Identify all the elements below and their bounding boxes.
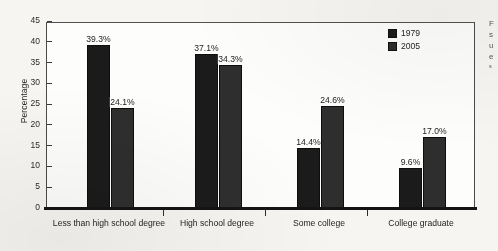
x-tick-2	[265, 210, 266, 216]
y-tick-label: 20	[31, 119, 40, 129]
y-tick-label: 35	[31, 57, 40, 67]
bar-1979-1[interactable]: 39.3%	[87, 45, 110, 208]
legend-item-1979[interactable]: 1979	[388, 27, 420, 39]
legend-swatch-icon	[388, 29, 397, 38]
x-tick-3	[367, 210, 368, 216]
y-tick-label: 40	[31, 36, 40, 46]
legend-item-2005[interactable]: 2005	[388, 40, 420, 52]
bar-group-2: 37.1%34.3%	[195, 23, 242, 208]
bar-1979-2[interactable]: 37.1%	[195, 54, 218, 208]
y-axis-title: Percentage	[19, 56, 29, 146]
margin-line-2: s	[489, 29, 498, 40]
bar-2005-4[interactable]: 17.0%	[423, 137, 446, 208]
legend-label: 1979	[401, 28, 420, 38]
x-axis-label-1: Less than high school degree	[49, 218, 169, 230]
bar-value-label: 17.0%	[421, 126, 447, 136]
bar-group-1: 39.3%24.1%	[87, 23, 134, 208]
x-tick-1	[163, 210, 164, 216]
chart-legend: 19792005	[388, 27, 420, 53]
bar-2005-3[interactable]: 24.6%	[321, 106, 344, 208]
bar-value-label: 37.1%	[193, 43, 219, 53]
margin-line-5: s	[489, 62, 498, 71]
bar-value-label: 34.3%	[217, 54, 243, 64]
y-tick-label: 30	[31, 77, 40, 87]
y-tick-label: 25	[31, 98, 40, 108]
bar-value-label: 14.4%	[295, 137, 321, 147]
bar-value-label: 24.1%	[109, 97, 135, 107]
margin-line-1: F	[489, 18, 498, 29]
y-tick-label: 0	[35, 202, 40, 212]
y-tick-label: 5	[35, 181, 40, 191]
bar-group-3: 14.4%24.6%	[297, 23, 344, 208]
bar-value-label: 24.6%	[319, 95, 345, 105]
bar-1979-3[interactable]: 14.4%	[297, 148, 320, 208]
margin-line-3: u	[489, 40, 498, 51]
y-tick-label: 45	[31, 15, 40, 25]
x-axis-label-4: College graduate	[361, 218, 481, 230]
bar-value-label: 39.3%	[85, 34, 111, 44]
legend-swatch-icon	[388, 42, 397, 51]
bar-value-label: 9.6%	[400, 157, 422, 167]
page-margin-text: F s u e s	[489, 18, 498, 71]
y-tick-label: 15	[31, 140, 40, 150]
margin-line-4: e	[489, 51, 498, 62]
x-axis-baseline	[44, 207, 477, 210]
y-tick-label: 10	[31, 160, 40, 170]
y-tick-mark	[47, 21, 52, 22]
bar-2005-2[interactable]: 34.3%	[219, 65, 242, 208]
bar-1979-4[interactable]: 9.6%	[399, 168, 422, 208]
legend-label: 2005	[401, 41, 420, 51]
bar-2005-1[interactable]: 24.1%	[111, 108, 134, 208]
